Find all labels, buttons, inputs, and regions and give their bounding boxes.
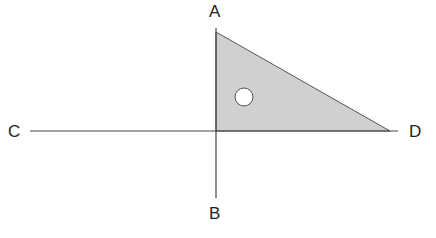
geometry-diagram (0, 0, 436, 238)
label-d: D (409, 123, 421, 140)
set-square-triangle (216, 32, 390, 131)
label-b: B (209, 205, 220, 222)
label-c: C (8, 123, 20, 140)
triangle-hole (235, 88, 253, 106)
label-a: A (209, 3, 220, 20)
